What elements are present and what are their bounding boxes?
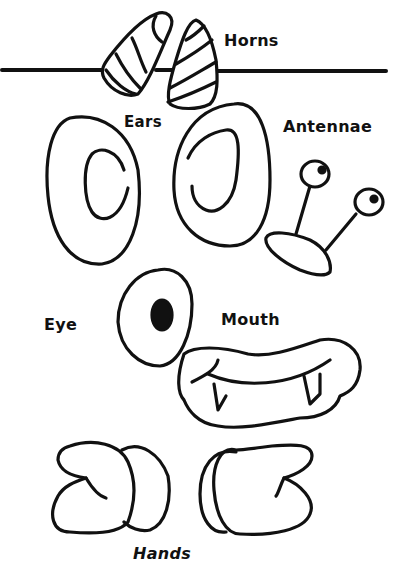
- horn-right-icon: [168, 20, 217, 109]
- hand-right-icon: [200, 445, 312, 534]
- label-eye: Eye: [44, 315, 77, 334]
- label-mouth: Mouth: [221, 310, 280, 329]
- ear-right-icon: [174, 104, 270, 246]
- label-ears: Ears: [124, 113, 162, 131]
- label-antennae: Antennae: [283, 117, 372, 136]
- ear-left-icon: [47, 117, 139, 264]
- antennae-icon: [266, 161, 383, 275]
- label-hands: Hands: [133, 544, 191, 563]
- horn-left-icon: [102, 13, 171, 95]
- craft-sheet: Horns Ears Antennae Eye Mouth Hands: [0, 0, 404, 586]
- drawing-canvas: [0, 0, 404, 586]
- hand-left-icon: [53, 443, 170, 533]
- eye-icon: [118, 269, 192, 366]
- mouth-icon: [179, 339, 360, 427]
- label-horns: Horns: [224, 31, 279, 50]
